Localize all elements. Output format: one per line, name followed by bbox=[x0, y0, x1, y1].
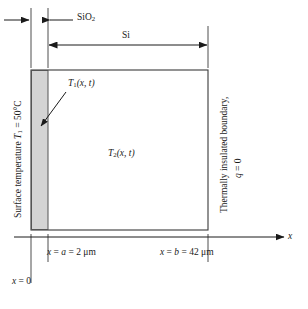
sio2-subscript: 2 bbox=[92, 15, 95, 22]
label-x-equals-a: x = a = 2 μm bbox=[47, 247, 96, 257]
label-heat-flux-zero: q = 0 bbox=[233, 158, 243, 178]
label-x-axis: x bbox=[288, 231, 292, 241]
label-surface-temperature: Surface temperature T1 = 50°C bbox=[13, 100, 24, 218]
label-x-equals-zero: x = 0 bbox=[12, 276, 31, 286]
label-t2-field: T2(x, t) bbox=[108, 148, 135, 159]
label-insulated-boundary: Thermally insulated boundary, bbox=[219, 97, 229, 213]
sio2-layer-shading bbox=[32, 71, 49, 230]
heat-conduction-diagram: SiO2 Si T1(x, t) T2(x, t) Surface temper… bbox=[0, 0, 308, 309]
label-x-equals-b: x = b = 42 μm bbox=[160, 247, 214, 257]
label-t1-field: T1(x, t) bbox=[68, 78, 95, 89]
label-sio2: SiO2 bbox=[77, 12, 95, 23]
diagram-vector-layer bbox=[0, 0, 308, 309]
label-si: Si bbox=[122, 30, 130, 40]
